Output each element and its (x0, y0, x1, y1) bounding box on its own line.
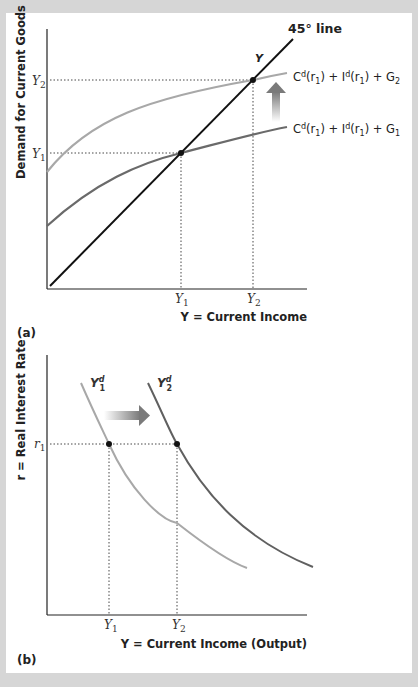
curve-g1-label: Cd(r1) + Id(r1) + G1 (293, 122, 400, 138)
ytick-y2-label: Y2 (32, 74, 46, 90)
curve-y1d-label: Yd1 (90, 375, 105, 393)
point-y1-r1 (106, 441, 112, 447)
ytick-r1-label: r1 (34, 437, 45, 453)
shift-up-arrow-icon (266, 82, 286, 122)
xtick-y1-label: Y1 (175, 292, 189, 308)
xtick-y2-label-b: Y2 (172, 618, 186, 634)
equilibrium-point-y1 (178, 150, 184, 156)
chart-a: 45° line Y Cd(r1) + Id(r1) + G2 Cd(r1) +… (14, 5, 400, 340)
xtick-y1-label-b: Y1 (104, 618, 118, 634)
curve-y2d-label: Yd2 (157, 375, 172, 393)
panel-b-label: (b) (17, 653, 37, 667)
equilibrium-point-y2 (250, 77, 256, 83)
curve-y1d (81, 383, 247, 568)
point-y-label: Y (255, 52, 264, 65)
curve-y2d (148, 383, 313, 567)
figure-svg: 45° line Y Cd(r1) + Id(r1) + G2 Cd(r1) +… (0, 0, 418, 687)
y-axis-title-a: Demand for Current Goods (14, 5, 28, 179)
y-axis-title-b: r = Real Interest Rate (14, 339, 28, 480)
curve-g1 (47, 127, 287, 226)
panel-a-label: (a) (17, 326, 36, 340)
xtick-y2-label: Y2 (247, 292, 261, 308)
line-45 (50, 39, 293, 286)
shift-right-arrow-icon (104, 405, 150, 426)
chart-b: Yd1 Yd2 r1 Y1 Y2 Y = Current Income (Out… (14, 339, 313, 667)
curve-g2-label: Cd(r1) + Id(r1) + G2 (293, 70, 400, 86)
x-axis-title-a: Y = Current Income (180, 310, 308, 324)
ytick-y1-label: Y1 (32, 147, 46, 163)
line-45-label: 45° line (288, 21, 342, 36)
x-axis-title-b: Y = Current Income (Output) (120, 637, 307, 651)
point-y2-r1 (174, 441, 180, 447)
